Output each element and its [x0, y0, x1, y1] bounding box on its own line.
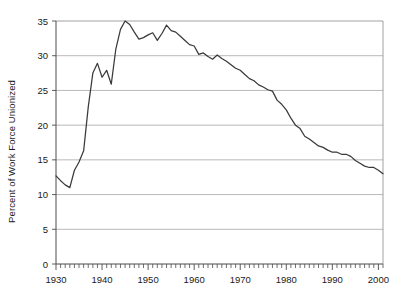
line-chart-plot: 05101520253035 1930194019501960197019801… [0, 0, 406, 303]
x-axis-tick-label: 1970 [230, 274, 251, 285]
y-axis-tick-label: 30 [37, 50, 48, 61]
x-axis-tick-label: 1990 [322, 274, 343, 285]
x-axis-tick-label: 1950 [138, 274, 159, 285]
y-axis-tick-labels: 05101520253035 [37, 16, 48, 270]
y-axis-tick-label: 10 [37, 189, 48, 200]
x-axis-minor-ticks [56, 264, 383, 270]
y-axis-tick-label: 0 [43, 259, 48, 270]
y-axis-tick-label: 15 [37, 154, 48, 165]
x-axis-tick-label: 2000 [368, 274, 389, 285]
x-axis-tick-label: 1930 [45, 274, 66, 285]
x-axis-tick-labels: 19301940195019601970198019902000 [45, 274, 389, 285]
x-axis-tick-label: 1960 [184, 274, 205, 285]
y-axis-tick-label: 25 [37, 85, 48, 96]
y-axis-tick-marks [52, 21, 56, 264]
y-axis-tick-label: 35 [37, 16, 48, 27]
x-axis-tick-label: 1940 [91, 274, 112, 285]
y-axis-tick-label: 20 [37, 120, 48, 131]
x-axis-tick-label: 1980 [276, 274, 297, 285]
y-axis-tick-label: 5 [43, 224, 48, 235]
chart-container: Percent of Work Force Unionized 05101520… [0, 0, 406, 303]
